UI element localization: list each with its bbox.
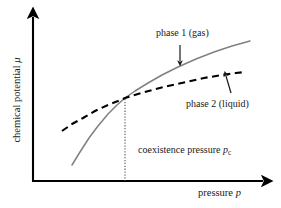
x-axis-label-text: pressure: [198, 187, 236, 198]
y-axis-label: chemical potential μ: [12, 20, 23, 180]
y-axis-label-symbol: μ: [11, 57, 22, 62]
coexistence-label-text: coexistence pressure: [138, 144, 223, 155]
phase-coexistence-diagram: chemical potential μ pressure p phase 1 …: [0, 0, 281, 208]
phase2-liquid-label: phase 2 (liquid): [186, 99, 249, 109]
x-axis-label-symbol: p: [236, 187, 241, 198]
phase1-gas-label: phase 1 (gas): [156, 28, 209, 38]
phase2-annotation-arrow-icon: [226, 76, 231, 93]
x-axis-label: pressure p: [198, 188, 241, 199]
coexistence-label-subscript: c: [228, 148, 231, 157]
coexistence-pressure-label: coexistence pressure pc: [138, 145, 231, 156]
y-axis-label-text: chemical potential: [11, 63, 22, 143]
